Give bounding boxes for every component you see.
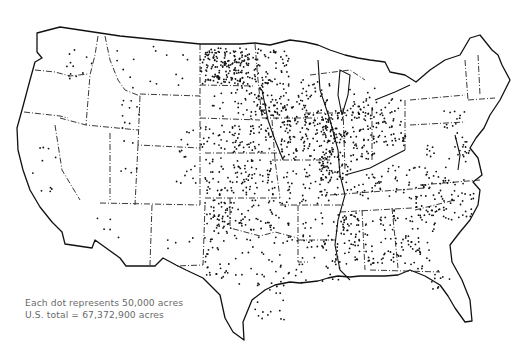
legend-dot-value: Each dot represents 50,000 acres xyxy=(25,297,183,309)
state-boundaries xyxy=(24,36,495,272)
legend-total: U.S. total = 67,372,900 acres xyxy=(25,309,183,321)
acreage-dots xyxy=(32,46,475,321)
rivers-and-lakes xyxy=(262,60,460,280)
map-legend: Each dot represents 50,000 acres U.S. to… xyxy=(25,297,183,321)
